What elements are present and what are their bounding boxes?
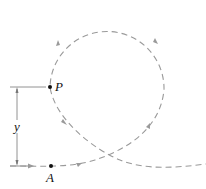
diagram-graphics [0, 0, 206, 189]
label-dimension-y: y [14, 120, 20, 133]
label-point-p: P [55, 80, 63, 93]
loop-path-diagram: P A y [0, 0, 206, 189]
point-p-dot [48, 85, 52, 89]
label-point-a: A [46, 171, 54, 184]
point-a-dot [49, 164, 53, 168]
loop-trajectory [10, 31, 206, 167]
direction-arrows [28, 38, 158, 169]
